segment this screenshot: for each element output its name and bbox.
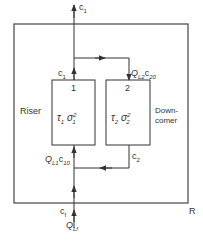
- q-l2-sub: L2: [138, 74, 145, 80]
- to-downcomer-label: QL2c20: [131, 68, 156, 78]
- qlf-sub: Lf: [73, 226, 78, 232]
- downcomer-out-label: c2: [132, 151, 140, 161]
- c10-sub: 10: [63, 160, 70, 166]
- downcomer-label-1: Down-: [155, 106, 178, 116]
- qlf: Q: [66, 220, 73, 230]
- top-out-label: c1: [79, 2, 87, 12]
- riser-label: Riser: [20, 106, 41, 116]
- c20-sub: 20: [149, 74, 156, 80]
- riser-params: τ1 σ21: [57, 113, 76, 123]
- q-l1: Q: [45, 154, 52, 164]
- riser-out-sub: 1: [63, 74, 66, 80]
- top-out-sub: 1: [84, 8, 87, 14]
- outer-box-label: R: [189, 206, 196, 216]
- riser-out-label: c1: [58, 68, 66, 78]
- downcomer-number: 2: [125, 83, 130, 93]
- q-l2: Q: [131, 68, 138, 78]
- riser-tau-sub: 1: [61, 119, 64, 125]
- cf-sub: f: [65, 212, 67, 218]
- c2-sub: 2: [137, 157, 140, 163]
- riser-number: 1: [71, 83, 76, 93]
- downcomer-tau-sub: 2: [115, 119, 118, 125]
- to-riser-label: QL1c10: [45, 154, 70, 164]
- riser-sigma-sup: 2: [73, 112, 76, 118]
- feed-q-label: QLf: [66, 220, 78, 230]
- downcomer-sigma-sup: 2: [127, 112, 130, 118]
- feed-c-label: cf: [60, 206, 66, 216]
- downcomer-label-2: comer: [155, 116, 177, 126]
- q-l1-sub: L1: [52, 160, 59, 166]
- downcomer-sigma-sub: 2: [126, 119, 129, 125]
- downcomer-params: τ2 σ22: [111, 113, 130, 123]
- riser-sigma-sub: 1: [72, 119, 75, 125]
